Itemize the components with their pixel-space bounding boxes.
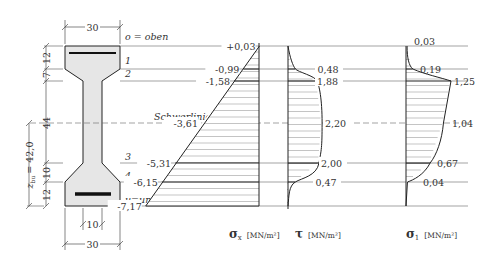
dim-12-bottom: 12 — [41, 189, 52, 201]
tau-value-label: 2,00 — [321, 158, 342, 169]
sigma-1-value-label: 0,04 — [423, 177, 444, 188]
dim-10: 10 — [41, 167, 52, 179]
chart-titles: σx[MN/m²] τ[MN/m²] σ1[MN/m²] — [229, 227, 457, 242]
stress-charts: +0,03-0,99-1,58-3,61-5,31-6,15-7,170,481… — [108, 36, 475, 212]
sigma-1-value-label: 1,04 — [452, 118, 473, 129]
sigma-1-value-label: 1,25 — [454, 76, 475, 87]
i-beam-shape — [65, 46, 120, 206]
sigma-1-title: σ1[MN/m²] — [406, 227, 457, 242]
sigma-1-value-label: 0,03 — [414, 36, 435, 47]
tau-value-label: 0,47 — [315, 177, 336, 188]
bottom-width-label: 30 — [86, 239, 98, 250]
sigma-1-value-label: 0,19 — [420, 64, 441, 75]
svg-text:zbu= 42,0: zbu= 42,0 — [24, 142, 36, 190]
web-width-label: 10 — [86, 219, 98, 230]
tau-value-label: 1,88 — [317, 76, 338, 87]
stress-diagram: 30 30 10 12 7 44 10 12 — [0, 0, 499, 259]
top-width-label: 30 — [86, 22, 98, 33]
sigma-x-value-label: -6,15 — [133, 177, 157, 188]
z-subscript: bu — [29, 176, 36, 184]
tau-value-label: 2,20 — [325, 118, 346, 129]
sigma-x-value-label: +0,03 — [226, 41, 255, 52]
tau-value-label: 0,48 — [317, 64, 338, 75]
fiber-label-1: 1 — [125, 55, 131, 66]
dim-44: 44 — [41, 117, 52, 129]
fiber-label-2: 2 — [124, 68, 131, 79]
tau-chart: 0,481,882,202,000,47 — [287, 46, 351, 209]
top-fiber-label: o = oben — [125, 31, 168, 42]
dim-12-top: 12 — [41, 52, 52, 64]
sigma-x-value-label: -1,58 — [206, 76, 230, 87]
z-value: = 42,0 — [24, 142, 35, 174]
sigma-1-chart: 0,030,191,251,040,670,04 — [406, 36, 475, 206]
sigma-x-value-label: -3,61 — [174, 118, 198, 129]
sigma-x-title: σx[MN/m²] — [229, 227, 280, 242]
z-bu-label: zbu= 42,0 — [24, 142, 36, 190]
tau-title: τ[MN/m²] — [295, 227, 341, 241]
sigma-1-value-label: 0,67 — [437, 158, 458, 169]
sigma-x-value-label: -0,99 — [215, 64, 239, 75]
fiber-label-3: 3 — [125, 151, 131, 162]
cross-section — [65, 46, 120, 206]
sigma-x-value-label: -7,17 — [117, 201, 141, 212]
dim-7: 7 — [41, 72, 52, 78]
sigma-x-value-label: -5,31 — [147, 158, 171, 169]
